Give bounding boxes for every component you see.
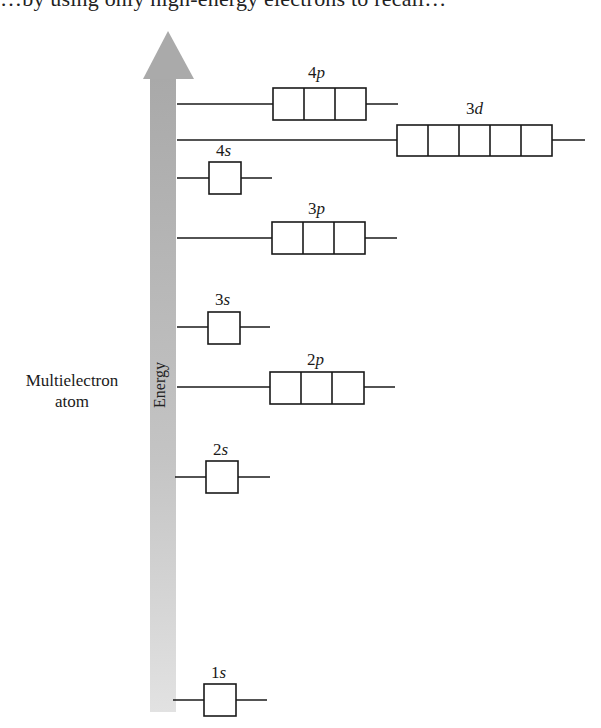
orbital-4p <box>177 88 398 120</box>
orbital-2s <box>175 461 270 493</box>
side-label-line-2: atom <box>8 391 136 412</box>
label-4p: 4p <box>308 64 325 81</box>
orbital-2p <box>177 372 395 404</box>
orbital-3p <box>177 222 397 254</box>
orbital-3d <box>177 125 585 156</box>
label-1s: 1s <box>211 664 226 681</box>
label-3s: 3s <box>215 291 230 308</box>
multielectron-atom-label: Multielectron atom <box>8 370 136 412</box>
energy-axis-label: Energy <box>150 345 170 425</box>
label-2p: 2p <box>307 351 324 368</box>
energy-level-diagram <box>0 0 601 728</box>
orbital-1s <box>173 684 267 716</box>
label-3d: 3d <box>466 100 483 117</box>
side-label-line-1: Multielectron <box>8 370 136 391</box>
label-2s: 2s <box>213 441 228 458</box>
label-3p: 3p <box>308 200 325 217</box>
orbital-4s <box>177 162 272 194</box>
label-4s: 4s <box>216 142 231 159</box>
orbital-3s <box>177 312 270 344</box>
